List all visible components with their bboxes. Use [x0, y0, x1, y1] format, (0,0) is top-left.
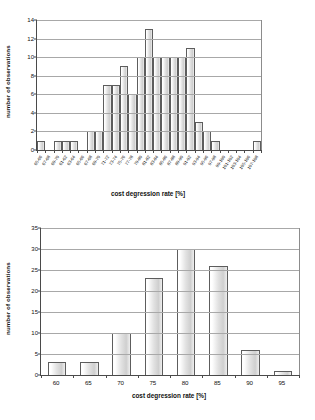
x-tick-label: 85: [201, 378, 233, 390]
x-tick-mark: [186, 150, 187, 153]
y-tick-label: 10: [27, 54, 37, 60]
chart-top-histogram: number of observations 02468101214 65-66…: [0, 2, 315, 202]
gridline: [37, 57, 261, 58]
x-tick-label: 69-70: [94, 154, 102, 188]
x-tick-mark: [299, 375, 300, 378]
chart-top-y-axis-title: number of observations: [4, 24, 11, 139]
x-tick-mark: [128, 150, 129, 153]
bar: [137, 57, 145, 150]
x-tick-mark: [145, 150, 146, 153]
y-tick-label: 14: [27, 17, 37, 23]
y-tick-label: 25: [31, 267, 41, 273]
bar-slot: [138, 228, 170, 375]
y-tick-label: 15: [31, 309, 41, 315]
x-tick-mark: [261, 150, 262, 153]
bar: [195, 122, 203, 150]
bar: [203, 131, 211, 150]
x-tick-mark: [153, 150, 154, 153]
gridline: [37, 131, 261, 132]
bar-slot: [267, 228, 299, 375]
x-tick-mark: [170, 150, 171, 153]
bar: [54, 141, 62, 150]
bar-slot: [202, 228, 234, 375]
bar: [178, 57, 186, 150]
x-tick-mark: [54, 150, 55, 153]
x-tick-mark: [78, 150, 79, 153]
chart-bottom-histogram: number of observations 05101520253035 60…: [0, 212, 315, 417]
chart-bottom-y-axis-title: number of observations: [4, 234, 11, 364]
y-tick-label: 5: [35, 351, 41, 357]
bar: [70, 141, 78, 150]
x-tick-label: 90: [234, 378, 266, 390]
bar: [253, 141, 261, 150]
bar: [209, 266, 228, 375]
bar-slot: [106, 228, 138, 375]
figure-page: number of observations 02468101214 65-66…: [0, 0, 315, 420]
x-tick-label: 103-104: [235, 154, 243, 188]
x-tick-mark: [178, 150, 179, 153]
x-tick-label: 80: [169, 378, 201, 390]
x-tick-mark: [253, 150, 254, 153]
gridline: [41, 312, 299, 313]
x-tick-label: 107-108: [252, 154, 260, 188]
x-tick-mark: [112, 150, 113, 153]
bar: [211, 141, 219, 150]
y-tick-label: 4: [31, 110, 37, 116]
x-tick-mark: [62, 150, 63, 153]
bar: [170, 57, 178, 150]
chart-bottom-x-axis-title: cost degression rate [%]: [40, 392, 298, 399]
x-tick-mark: [236, 150, 237, 153]
x-tick-mark: [120, 150, 121, 153]
x-tick-mark: [203, 150, 204, 153]
gridline: [37, 39, 261, 40]
chart-top-x-axis-title: cost degression rate [%]: [36, 190, 260, 197]
bar-slot: [73, 228, 105, 375]
bar: [48, 362, 67, 375]
bar: [120, 66, 128, 150]
x-tick-mark: [228, 150, 229, 153]
bar: [95, 131, 103, 150]
x-tick-label: 70: [105, 378, 137, 390]
bar: [153, 57, 161, 150]
x-tick-label: 95: [266, 378, 298, 390]
chart-top-plot-area: 02468101214: [36, 20, 261, 151]
bar: [80, 362, 99, 375]
x-tick-mark: [211, 150, 212, 153]
x-tick-mark: [87, 150, 88, 153]
bar: [161, 57, 169, 150]
y-tick-label: 2: [31, 128, 37, 134]
x-tick-mark: [103, 150, 104, 153]
x-tick-label: 83-84: [152, 154, 160, 188]
y-tick-label: 20: [31, 288, 41, 294]
bar: [62, 141, 70, 150]
bar: [128, 94, 136, 150]
gridline: [37, 94, 261, 95]
gridline: [37, 113, 261, 114]
gridline: [41, 333, 299, 334]
y-tick-label: 30: [31, 246, 41, 252]
x-tick-mark: [95, 150, 96, 153]
y-tick-label: 8: [31, 73, 37, 79]
bar: [274, 371, 293, 375]
x-tick-mark: [220, 150, 221, 153]
bar-slot: [170, 228, 202, 375]
x-tick-mark: [161, 150, 162, 153]
x-tick-mark: [45, 150, 46, 153]
gridline: [41, 354, 299, 355]
x-tick-mark: [37, 150, 38, 153]
x-tick-mark: [137, 150, 138, 153]
x-tick-mark: [195, 150, 196, 153]
y-tick-label: 12: [27, 36, 37, 42]
y-tick-label: 6: [31, 91, 37, 97]
chart-bottom-plot-area: 05101520253035: [40, 228, 299, 376]
gridline: [41, 270, 299, 271]
gridline: [37, 76, 261, 77]
x-tick-label: 75: [137, 378, 169, 390]
y-tick-label: 10: [31, 330, 41, 336]
bar: [145, 278, 164, 375]
gridline: [41, 291, 299, 292]
x-tick-mark: [244, 150, 245, 153]
chart-bottom-bar-series: [41, 228, 299, 375]
gridline: [41, 249, 299, 250]
bar-slot: [235, 228, 267, 375]
